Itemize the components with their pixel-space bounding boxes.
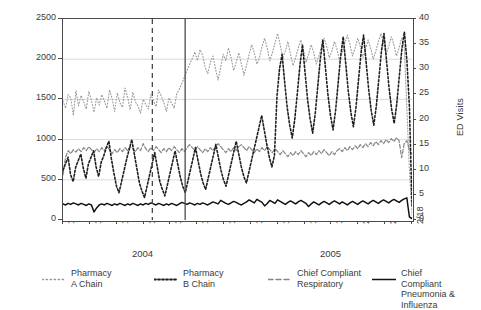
chart-legend: Pharmacy A ChainPharmacy B ChainChief Co… (42, 268, 462, 298)
y-axis-right-tick-label: 5 (419, 188, 447, 198)
x-axis-tick-label: 2/18 (415, 206, 425, 224)
legend-label: Chief Compliant Pneumonia & Influenza (401, 268, 462, 310)
legend-label: Pharmacy B Chain (183, 268, 224, 289)
legend-item[interactable]: Chief Compliant Respiratory (268, 268, 361, 289)
year-label-wrap: 2005 (250, 248, 411, 259)
legend-label: Pharmacy A Chain (71, 268, 112, 289)
y-axis-right-tick-label: 35 (419, 37, 447, 47)
year-group: 2004 (62, 248, 223, 262)
y-axis-right-tick-label: 40 (419, 12, 447, 22)
y-axis-left-tick-label: 1000 (20, 133, 56, 143)
y-axis-left-tick-label: 1500 (20, 92, 56, 102)
y-axis-right-tick-label: 20 (419, 113, 447, 123)
y-axis-left-tick-label: 0 (20, 213, 56, 223)
y-axis-left-tick-label: 2500 (20, 12, 56, 22)
legend-item[interactable]: Pharmacy B Chain (154, 268, 224, 289)
legend-item[interactable]: Pharmacy A Chain (42, 268, 112, 289)
y-axis-left-tick-label: 2000 (20, 52, 56, 62)
y-axis-right-tick-label: 25 (419, 87, 447, 97)
year-group: 2005 (250, 248, 411, 262)
plot-area (62, 18, 414, 222)
legend-item[interactable]: Chief Compliant Pneumonia & Influenza (372, 268, 462, 310)
plot-canvas (63, 19, 412, 220)
year-label: 2005 (316, 248, 345, 259)
legend-line-swatch (154, 270, 178, 279)
legend-line-swatch (268, 270, 292, 279)
y-axis-right-title: ED Visits (455, 98, 465, 136)
legend-line-swatch (42, 270, 66, 279)
y-axis-right-tick-label: 15 (419, 138, 447, 148)
legend-line-swatch (372, 270, 396, 279)
year-label-wrap: 2004 (62, 248, 223, 259)
y-axis-right-tick-label: 30 (419, 62, 447, 72)
legend-label: Chief Compliant Respiratory (297, 268, 361, 289)
y-axis-left-tick-label: 500 (20, 173, 56, 183)
y-axis-right-tick-label: 10 (419, 163, 447, 173)
year-label: 2004 (128, 248, 157, 259)
